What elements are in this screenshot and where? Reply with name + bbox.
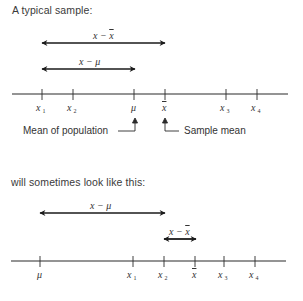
tick-label-x4-bottom: x4 bbox=[249, 269, 258, 281]
tick-label-x2-top: x2 bbox=[67, 102, 76, 114]
tick-label-xbar-top: x bbox=[162, 102, 166, 113]
label-x-minus-mu-top: x − μ bbox=[79, 56, 100, 67]
note-sample-mean: Sample mean bbox=[184, 125, 246, 136]
caption-typical-sample: A typical sample: bbox=[12, 4, 93, 16]
label-x-minus-mu-bottom: x − μ bbox=[90, 200, 111, 211]
tick-label-x3-top: x3 bbox=[220, 102, 229, 114]
tick-label-mu-top: μ bbox=[131, 102, 136, 113]
caption-sometimes: will sometimes look like this: bbox=[11, 176, 145, 188]
tick-label-x3-bottom: x3 bbox=[218, 269, 227, 281]
note-mean-of-population: Mean of population bbox=[23, 125, 108, 136]
tick-label-x2-bottom: x2 bbox=[158, 269, 167, 281]
tick-label-mu-bottom: μ bbox=[37, 269, 42, 280]
tick-label-xbar-bottom: x bbox=[192, 269, 196, 280]
pointer-sample-mean bbox=[163, 118, 180, 131]
tick-label-x4-top: x4 bbox=[251, 102, 260, 114]
label-x-minus-xbar-top: x − x bbox=[93, 30, 114, 41]
diagram-lines bbox=[0, 0, 303, 301]
label-x-minus-xbar-bottom: x − x bbox=[169, 226, 190, 237]
pointer-population-mean bbox=[118, 118, 138, 131]
tick-label-x1-top: x1 bbox=[36, 102, 45, 114]
tick-label-x1-bottom: x1 bbox=[127, 269, 136, 281]
